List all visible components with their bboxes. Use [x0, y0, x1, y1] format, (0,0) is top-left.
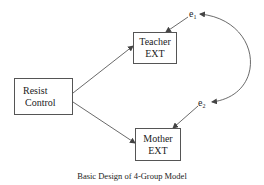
- figure-caption: Basic Design of 4-Group Model: [0, 171, 264, 181]
- error-subscript: 2: [202, 103, 205, 109]
- node-label-line2: Control: [23, 97, 56, 109]
- path-e2-to-mother: [173, 106, 198, 128]
- error-subscript: 1: [193, 14, 196, 20]
- node-label-line2: EXT: [148, 145, 167, 157]
- path-resist-to-teacher: [73, 46, 133, 93]
- node-label-line2: EXT: [145, 48, 164, 60]
- node-mother-ext: Mother EXT: [135, 128, 181, 161]
- covariance-arc-e1-e2: [200, 14, 251, 102]
- node-label-line1: Resist: [23, 85, 47, 97]
- error-term-e2: e2: [198, 98, 205, 111]
- path-resist-to-mother: [73, 102, 135, 143]
- path-e1-to-teacher: [166, 17, 188, 32]
- node-resist-control: Resist Control: [14, 78, 73, 115]
- node-teacher-ext: Teacher EXT: [133, 32, 177, 64]
- node-label-line1: Teacher: [139, 36, 171, 48]
- node-label-line1: Mother: [143, 133, 172, 145]
- error-term-e1: e1: [189, 9, 196, 22]
